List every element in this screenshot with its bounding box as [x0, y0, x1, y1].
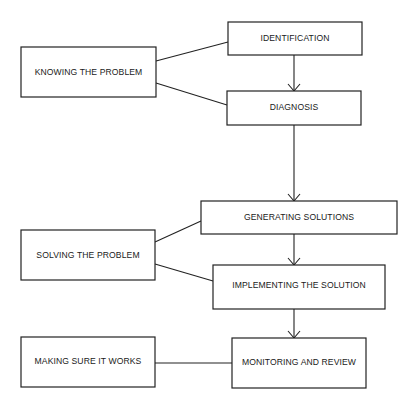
step-box-diagnosis: DIAGNOSIS	[227, 91, 361, 125]
arrow-diagnosis-generating	[288, 125, 300, 201]
step-box-monitoring: MONITORING AND REVIEW	[232, 338, 366, 388]
step-box-implementing: IMPLEMENTING THE SOLUTION	[213, 265, 385, 309]
step-label-generating: GENERATING SOLUTIONS	[244, 212, 354, 222]
stage-label-making-sure: MAKING SURE IT WORKS	[35, 356, 142, 366]
stage-label-knowing: KNOWING THE PROBLEM	[35, 67, 143, 77]
arrow-implementing-monitoring	[288, 309, 300, 338]
step-box-identification: IDENTIFICATION	[228, 22, 362, 55]
step-label-implementing: IMPLEMENTING THE SOLUTION	[232, 280, 366, 290]
step-box-generating: GENERATING SOLUTIONS	[201, 201, 397, 234]
stage-box-solving: SOLVING THE PROBLEM	[21, 230, 155, 280]
arrow-generating-implementing	[288, 234, 300, 265]
link-solving-implementing	[155, 264, 213, 281]
stage-box-making-sure: MAKING SURE IT WORKS	[21, 337, 155, 387]
link-solving-generating	[155, 221, 201, 242]
link-knowing-identification	[156, 42, 228, 61]
arrow-identification-diagnosis	[288, 55, 300, 91]
flowchart-canvas: KNOWING THE PROBLEM SOLVING THE PROBLEM …	[0, 0, 417, 414]
step-label-diagnosis: DIAGNOSIS	[270, 102, 319, 112]
link-knowing-diagnosis	[156, 83, 227, 105]
step-label-monitoring: MONITORING AND REVIEW	[242, 357, 357, 367]
step-label-identification: IDENTIFICATION	[260, 33, 329, 43]
stage-box-knowing: KNOWING THE PROBLEM	[21, 47, 156, 97]
stage-label-solving: SOLVING THE PROBLEM	[36, 250, 139, 260]
